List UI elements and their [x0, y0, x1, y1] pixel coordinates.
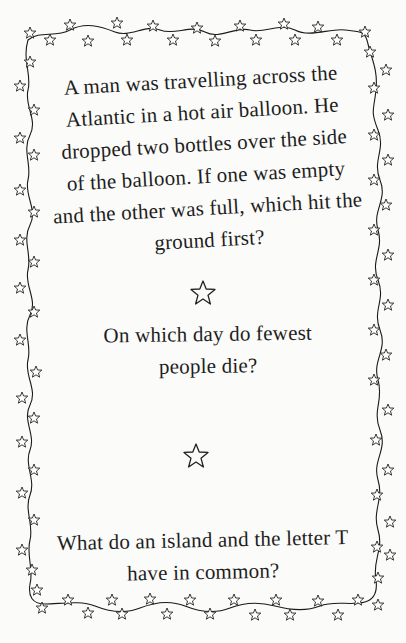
- riddle-island-letter-t: What do an island and the letter T have …: [29, 520, 376, 591]
- riddle-balloon-bottles: A man was travelling across the Atlantic…: [35, 55, 375, 265]
- riddle-line: On which day do fewest: [48, 316, 368, 352]
- book-page: A man was travelling across the Atlantic…: [0, 0, 406, 643]
- star-outline-icon: [181, 441, 211, 471]
- riddle-line: people die?: [48, 348, 368, 384]
- star-outline-icon: [188, 278, 218, 308]
- riddle-fewest-deaths: On which day do fewest people die?: [48, 316, 369, 384]
